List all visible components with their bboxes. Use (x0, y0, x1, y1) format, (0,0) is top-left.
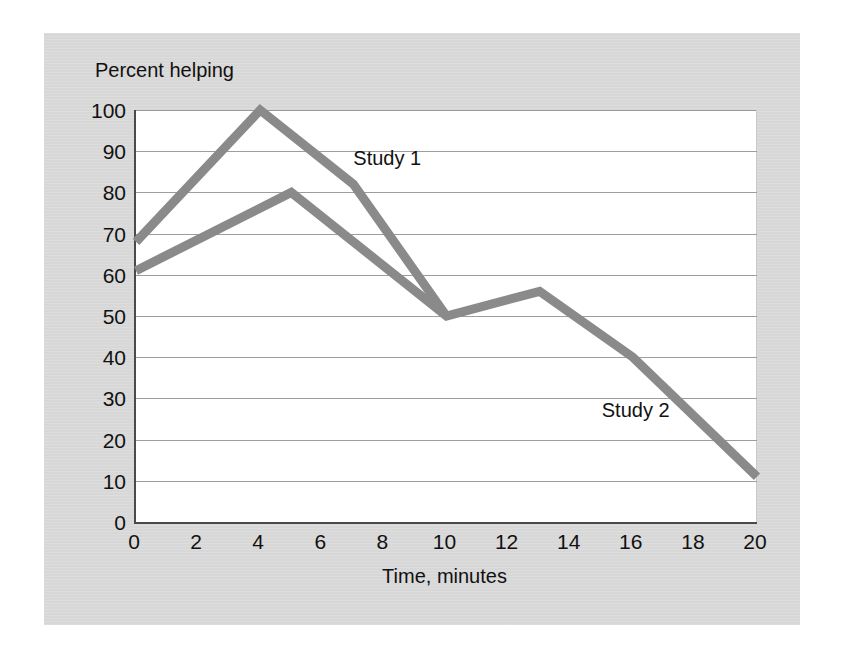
y-axis-tick-label: 0 (86, 512, 126, 533)
series-annotation: Study 2 (602, 399, 670, 422)
y-axis-tick-label: 90 (86, 141, 126, 162)
y-axis-title: Percent helping (95, 59, 234, 82)
series-layer (136, 110, 757, 522)
y-axis-tick-label: 60 (86, 265, 126, 286)
y-axis-tick-labels: 0102030405060708090100 (80, 110, 126, 522)
x-axis-title: Time, minutes (134, 565, 755, 588)
x-axis-tick-label: 6 (298, 531, 342, 552)
series-line (136, 192, 757, 476)
y-axis-tick-label: 20 (86, 430, 126, 451)
x-axis-tick-label: 18 (671, 531, 715, 552)
x-axis-tick-label: 14 (547, 531, 591, 552)
series-line (136, 110, 447, 316)
series-annotation: Study 1 (353, 147, 421, 170)
x-axis-tick-label: 4 (236, 531, 280, 552)
x-axis-tick-label: 10 (423, 531, 467, 552)
y-axis-tick-label: 70 (86, 224, 126, 245)
y-axis-tick-label: 50 (86, 306, 126, 327)
y-axis-tick-label: 100 (86, 100, 126, 121)
y-axis-tick-label: 40 (86, 347, 126, 368)
figure-root: Percent helping 0102030405060708090100 S… (0, 0, 857, 658)
x-axis-tick-label: 0 (112, 531, 156, 552)
x-axis-tick-label: 20 (733, 531, 777, 552)
y-axis-tick-label: 10 (86, 471, 126, 492)
x-axis-tick-label: 12 (485, 531, 529, 552)
x-axis-tick-labels: 02468101214161820 (134, 531, 755, 559)
x-axis-tick-label: 16 (609, 531, 653, 552)
x-axis-tick-label: 2 (174, 531, 218, 552)
plot-area: Study 1Study 2 (134, 110, 757, 524)
x-axis-tick-label: 8 (360, 531, 404, 552)
y-axis-tick-label: 80 (86, 182, 126, 203)
y-axis-tick-label: 30 (86, 388, 126, 409)
